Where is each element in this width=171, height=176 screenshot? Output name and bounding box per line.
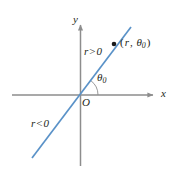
r-positive-label: r>0	[84, 46, 102, 57]
r-negative-relation: <	[35, 117, 43, 129]
point-coordinate-label: (r, θ0)	[119, 37, 151, 50]
x-axis-label: x	[161, 88, 166, 99]
theta-subscript: 0	[102, 76, 106, 85]
y-axis-label: y	[73, 14, 78, 25]
polar-coordinate-figure: y x O r>0 r<0 θ0 (r, θ0)	[0, 0, 171, 176]
plotted-point	[112, 42, 117, 47]
polar-line	[32, 27, 131, 158]
r-negative-value: 0	[44, 117, 50, 129]
r-positive-relation: >	[88, 45, 96, 57]
paren-close: )	[146, 36, 152, 48]
theta-label: θ0	[97, 72, 106, 85]
r-positive-value: 0	[97, 45, 103, 57]
figure-canvas	[0, 0, 171, 176]
coord-comma: ,	[129, 36, 134, 48]
origin-label: O	[82, 97, 90, 108]
r-negative-label: r<0	[31, 118, 49, 129]
